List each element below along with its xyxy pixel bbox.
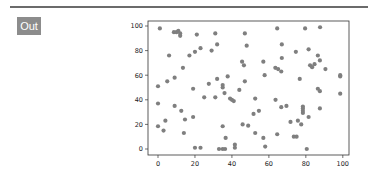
scatter-point [243,79,247,83]
scatter-point [213,31,217,35]
scatter-point [307,115,311,119]
scatter-point [221,124,225,128]
scatter-point [296,119,300,123]
scatter-point [275,26,279,30]
scatter-point [294,50,298,54]
y-tick-label: 80 [135,47,143,55]
scatter-point [213,95,217,99]
scatter-point [156,124,160,128]
scatter-point [237,88,241,92]
scatter-point [263,73,267,77]
scatter-point [223,147,227,151]
y-tick-label: 100 [131,22,143,30]
scatter-point [217,147,221,151]
scatter-point [167,53,171,57]
x-tick-label: 60 [265,160,273,168]
scatter-point [181,66,185,70]
scatter-point [161,128,165,132]
scatter-point [243,31,247,35]
scatter-chart: 020406080100 020406080100 [0,0,368,178]
scatter-point [221,85,225,89]
scatter-point [187,53,191,57]
scatter-point [284,104,288,108]
scatter-point [173,104,177,108]
scatter-point [318,58,322,62]
scatter-point [251,112,255,116]
scatter-point [338,74,342,78]
scatter-point [191,115,195,119]
x-axis-ticks: 020406080100 [156,155,349,168]
y-tick-label: 40 [135,96,143,104]
scatter-point [318,106,322,110]
scatter-point [215,77,219,81]
scatter-point [305,147,309,151]
x-tick-label: 0 [156,160,160,168]
scatter-point [310,65,314,69]
y-tick-label: 20 [135,121,143,129]
scatter-point [279,105,283,109]
scatter-point [165,79,169,83]
scatter-point [261,136,265,140]
scatter-point [316,53,320,57]
scatter-point [245,44,249,48]
scatter-point [246,124,250,128]
scatter-point [182,131,186,135]
scatter-point [273,98,277,102]
scatter-point [198,46,202,50]
scatter-point [156,101,160,105]
scatter-point [156,84,160,88]
scatter-point [303,26,307,30]
scatter-point [232,99,236,103]
scatter-point [323,67,327,71]
scatter-point [240,60,244,64]
scatter-point [191,87,195,91]
scatter-point [253,96,257,100]
scatter-point [263,144,267,148]
scatter-point [178,34,182,38]
scatter-point [301,111,305,115]
x-tick-label: 100 [337,160,349,168]
scatter-point [233,146,237,150]
scatter-point [253,131,257,135]
scatter-point [295,135,299,139]
scatter-point [288,120,292,124]
scatter-point [198,146,202,150]
scatter-point [318,25,322,29]
scatter-point [179,109,183,113]
scatter-point [158,26,162,30]
scatter-point [163,119,167,123]
scatter-point [241,122,245,126]
scatter-point [299,122,303,126]
y-tick-label: 60 [135,72,143,80]
scatter-point [338,92,342,96]
y-axis-ticks: 020406080100 [131,22,148,153]
scatter-point [183,117,187,121]
scatter-point [280,56,284,60]
scatter-point [209,49,213,53]
scatter-point [242,63,246,67]
scatter-point [193,50,197,54]
scatter-point [215,42,219,46]
scatter-point [275,132,279,136]
x-tick-label: 40 [228,160,236,168]
scatter-point [279,69,283,73]
scatter-point [261,60,265,64]
scatter-point [280,42,284,46]
scatter-point [222,91,226,95]
x-tick-label: 20 [191,160,199,168]
scatter-point [193,146,197,150]
scatter-point [195,33,199,37]
scatter-point [202,95,206,99]
x-tick-label: 80 [302,160,310,168]
scatter-point [318,89,322,93]
scatter-point [257,109,261,113]
scatter-point [173,76,177,80]
scatter-point [207,82,211,86]
scatter-point [226,74,230,78]
y-tick-label: 0 [139,145,143,153]
scatter-point [307,47,311,51]
scatter-point [224,136,228,140]
scatter-point [298,77,302,81]
